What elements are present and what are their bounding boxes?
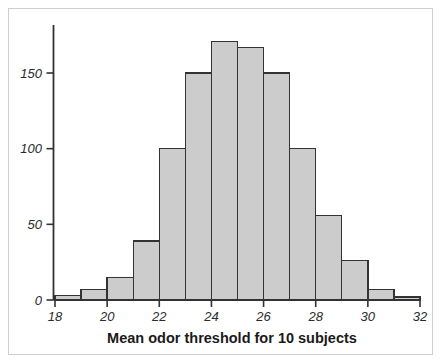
x-tick-label: 20 — [99, 309, 115, 324]
histogram-bar — [342, 261, 368, 300]
histogram-bar — [264, 73, 290, 300]
x-tick-label: 18 — [48, 309, 63, 324]
y-tick-label: 100 — [20, 141, 42, 156]
y-tick-label: 50 — [28, 217, 43, 232]
histogram-bar — [316, 215, 342, 300]
y-tick-label: 150 — [20, 66, 42, 81]
histogram-bar — [159, 149, 185, 300]
x-axis-title: Mean odor threshold for 10 subjects — [107, 330, 357, 346]
histogram-bar — [81, 289, 107, 300]
histogram-figure: 050100150 1820222426283032 Mean odor thr… — [0, 0, 441, 363]
x-tick-label: 32 — [413, 309, 428, 324]
x-tick-label: 28 — [307, 309, 323, 324]
histogram-bar — [185, 73, 211, 300]
histogram-bar — [133, 241, 159, 300]
histogram-bar — [107, 277, 133, 300]
x-tick-label: 30 — [361, 309, 376, 324]
x-tick-label: 22 — [151, 309, 167, 324]
y-tick-label: 0 — [35, 293, 43, 308]
x-tick-label: 24 — [203, 309, 218, 324]
chart-canvas: 050100150 1820222426283032 Mean odor thr… — [0, 0, 441, 363]
histogram-bar — [211, 41, 237, 300]
x-tick-label: 26 — [255, 309, 271, 324]
histogram-bar — [290, 149, 316, 300]
histogram-bar — [368, 289, 394, 300]
histogram-bar — [238, 47, 264, 300]
